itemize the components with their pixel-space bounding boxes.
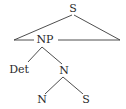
node-s-leaf: S: [81, 94, 91, 105]
edge-n-n: [45, 77, 63, 94]
node-np: NP: [35, 34, 54, 45]
tree-edges: [0, 0, 126, 109]
node-n-mid: N: [58, 65, 70, 76]
node-n-leaf: N: [36, 94, 48, 105]
edge-n-s: [63, 77, 83, 94]
node-det: Det: [8, 64, 30, 75]
edge-np-det: [28, 47, 42, 62]
node-s-root: S: [68, 3, 78, 14]
edge-np-n: [42, 47, 62, 64]
syntax-tree: S NP Det N N S: [0, 0, 126, 109]
edge-s-right: [74, 15, 120, 40]
